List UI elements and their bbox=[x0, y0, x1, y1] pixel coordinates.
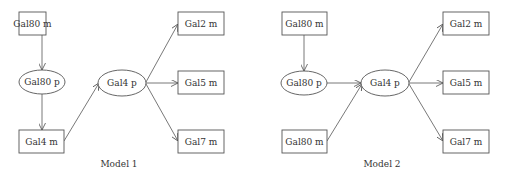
node-label: Gal80 m bbox=[285, 137, 324, 147]
node-m1-gal80m: Gal80 m bbox=[13, 12, 52, 35]
node-m1-gal5m: Gal5 m bbox=[178, 71, 224, 94]
arrow-m2-gal4p-to-m2-gal7m bbox=[409, 84, 443, 141]
node-label: Gal2 m bbox=[185, 19, 218, 29]
model-1-group: Gal80 mGal80 pGal4 mGal4 pGal2 mGal5 mGa… bbox=[13, 12, 224, 169]
node-m1-gal4m: Gal4 m bbox=[19, 130, 64, 153]
model-caption: Model 2 bbox=[363, 159, 400, 169]
node-m2-gal4p: Gal4 p bbox=[361, 70, 409, 96]
node-m1-gal4p: Gal4 p bbox=[98, 70, 146, 96]
node-m2-gal2m: Gal2 m bbox=[443, 12, 489, 35]
arrow-m1-gal4m-to-m1-gal4p bbox=[64, 83, 99, 141]
node-label: Gal80 m bbox=[13, 19, 52, 29]
node-label: Gal2 m bbox=[450, 19, 483, 29]
node-m2-gal80p: Gal80 p bbox=[281, 71, 327, 95]
node-label: Gal80 m bbox=[285, 19, 324, 29]
node-label: Gal4 p bbox=[370, 78, 400, 88]
node-m1-gal80p: Gal80 p bbox=[19, 70, 65, 94]
model-caption: Model 1 bbox=[100, 159, 137, 169]
model-2-group: Gal80 mGal80 pGal80 mGal4 pGal2 mGal5 mG… bbox=[281, 12, 489, 169]
node-m2-gal80m-bottom: Gal80 m bbox=[282, 130, 327, 153]
node-m1-gal2m: Gal2 m bbox=[178, 12, 224, 35]
node-label: Gal4 m bbox=[25, 137, 58, 147]
arrow-m1-gal4p-to-m1-gal7m bbox=[146, 84, 178, 141]
node-m1-gal7m: Gal7 m bbox=[178, 130, 224, 153]
node-label: Gal7 m bbox=[450, 137, 483, 147]
node-label: Gal5 m bbox=[450, 78, 483, 88]
node-label: Gal80 p bbox=[286, 78, 322, 88]
arrow-m2-gal80m-bottom-to-m2-gal4p bbox=[327, 84, 362, 141]
gene-regulation-diagram: Gal80 mGal80 pGal4 mGal4 pGal2 mGal5 mGa… bbox=[0, 0, 507, 177]
node-m2-gal80m-top: Gal80 m bbox=[282, 12, 327, 35]
arrow-m1-gal4p-to-m1-gal2m bbox=[146, 24, 178, 82]
node-label: Gal4 p bbox=[107, 78, 137, 88]
node-label: Gal5 m bbox=[185, 78, 218, 88]
node-m2-gal5m: Gal5 m bbox=[443, 71, 489, 94]
node-label: Gal7 m bbox=[185, 137, 218, 147]
node-label: Gal80 p bbox=[24, 77, 60, 87]
arrow-m2-gal4p-to-m2-gal2m bbox=[409, 24, 443, 82]
node-m2-gal7m: Gal7 m bbox=[443, 130, 489, 153]
